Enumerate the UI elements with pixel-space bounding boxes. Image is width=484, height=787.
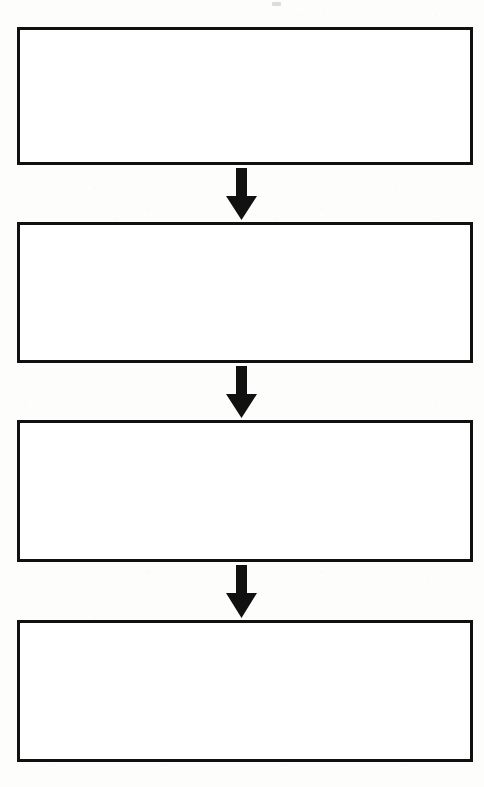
process-box-1[interactable] [17, 27, 473, 165]
scan-artifact-mark [272, 2, 281, 6]
arrow-down-icon-3 [226, 565, 257, 618]
flowchart-page [0, 0, 484, 787]
process-box-3[interactable] [17, 420, 473, 562]
arrow-down-icon-2 [226, 366, 257, 418]
process-box-4[interactable] [17, 620, 473, 762]
arrow-down-icon-1 [226, 168, 257, 220]
process-box-2[interactable] [17, 222, 473, 363]
